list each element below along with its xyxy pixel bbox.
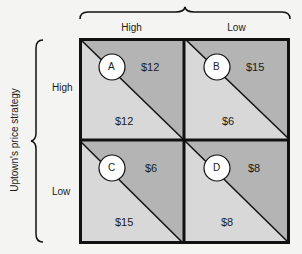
cell-b-upper-price: $15 bbox=[246, 61, 264, 73]
row-label-low: Low bbox=[52, 186, 70, 197]
row-axis-label: Uptown's price strategy bbox=[9, 88, 20, 192]
cell-c-upper-price: $6 bbox=[145, 162, 157, 174]
cell-a-label: A bbox=[108, 61, 115, 72]
cell-a-lower-price: $12 bbox=[115, 115, 133, 127]
cell-d-lower-price: $8 bbox=[221, 216, 233, 228]
cell-b-label: B bbox=[213, 61, 220, 72]
column-label-low: Low bbox=[184, 22, 289, 33]
payoff-matrix: A $12 $12 B $15 $6 C $6 $15 D $8 $8 bbox=[79, 38, 290, 244]
cell-c-label: C bbox=[108, 162, 115, 173]
cell-d-upper-price: $8 bbox=[248, 162, 260, 174]
cell-b-lower-price: $6 bbox=[222, 115, 234, 127]
cell-d-label: D bbox=[213, 162, 220, 173]
cell-a-upper-price: $12 bbox=[141, 61, 159, 73]
column-label-high: High bbox=[79, 22, 184, 33]
cell-c-lower-price: $15 bbox=[115, 216, 133, 228]
top-brace bbox=[78, 6, 292, 20]
row-label-high: High bbox=[52, 82, 73, 93]
left-brace bbox=[30, 38, 44, 244]
